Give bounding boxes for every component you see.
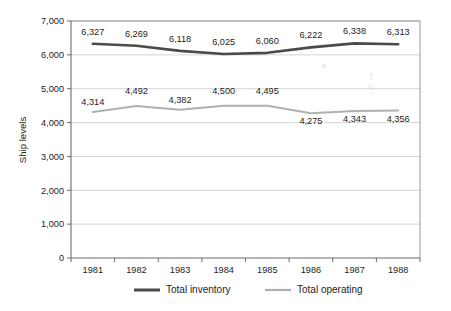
data-point-label: 6,327 <box>81 27 104 37</box>
y-tick-label: 5,000 <box>41 84 64 94</box>
data-point-label: 6,060 <box>256 36 279 46</box>
x-tick-label: 1986 <box>301 265 321 275</box>
x-tick-label: 1982 <box>126 265 146 275</box>
data-point-label: 6,025 <box>212 37 235 47</box>
x-tick-label: 1981 <box>83 265 103 275</box>
y-tick-label: 4,000 <box>41 118 64 128</box>
data-point-label: 4,275 <box>299 116 322 126</box>
data-point-label: 4,382 <box>169 95 192 105</box>
data-point-label: 4,495 <box>256 86 279 96</box>
y-axis-title: Ship levels <box>17 117 28 164</box>
data-point-label: 4,314 <box>81 97 104 107</box>
chart-legend: Total inventoryTotal operating <box>134 284 363 295</box>
y-tick-label: 0 <box>59 253 64 263</box>
y-tick-label: 7,000 <box>41 16 64 26</box>
legend-label-1: Total inventory <box>166 284 230 295</box>
line-chart: 01,0002,0003,0004,0005,0006,0007,000 198… <box>0 0 451 311</box>
x-tick-label: 1985 <box>257 265 277 275</box>
x-axis-ticks: 19811982198319841985198619871988 <box>71 258 420 275</box>
chart-container: 01,0002,0003,0004,0005,0006,0007,000 198… <box>0 0 451 311</box>
x-tick-label: 1983 <box>170 265 190 275</box>
y-axis-ticks: 01,0002,0003,0004,0005,0006,0007,000 <box>41 16 71 263</box>
y-tick-label: 6,000 <box>41 50 64 60</box>
data-point-label: 6,118 <box>169 34 191 44</box>
x-tick-label: 1988 <box>388 265 408 275</box>
plot-background <box>71 21 420 258</box>
y-axis-title-group: Ship levels <box>17 117 28 164</box>
legend-label-2: Total operating <box>297 284 363 295</box>
x-tick-label: 1984 <box>213 265 233 275</box>
data-point-label: 6,338 <box>343 26 366 36</box>
x-tick-label: 1987 <box>344 265 364 275</box>
data-point-label: 6,269 <box>125 29 148 39</box>
data-point-label: 4,356 <box>387 114 410 124</box>
data-point-label: 4,343 <box>343 114 366 124</box>
y-tick-label: 2,000 <box>41 186 64 196</box>
data-point-label: 4,492 <box>125 86 148 96</box>
data-point-label: 4,500 <box>212 86 235 96</box>
data-point-label: 6,222 <box>299 30 322 40</box>
data-point-label: 6,313 <box>387 27 410 37</box>
y-tick-label: 1,000 <box>41 219 64 229</box>
y-tick-label: 3,000 <box>41 152 64 162</box>
